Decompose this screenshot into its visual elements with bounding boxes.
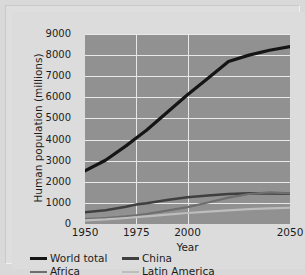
y-tick-label: 8000: [46, 50, 71, 60]
legend-entry-china: China: [122, 253, 172, 264]
figure-canvas: Human population (millions) 010002000300…: [12, 12, 305, 269]
y-tick-label: 6000: [46, 92, 71, 102]
x-tick-label: 2050: [277, 227, 304, 238]
legend-label-africa: Africa: [50, 266, 80, 275]
x-tick-label: 1950: [72, 227, 99, 238]
chart-legend: World total China Africa Latin America: [30, 252, 300, 275]
y-tick-label: 7000: [46, 71, 71, 81]
legend-swatch-world-total: [30, 257, 47, 260]
y-tick-label: 4000: [46, 135, 71, 145]
y-tick-label: 9000: [46, 29, 71, 39]
legend-row: Africa Latin America: [30, 265, 300, 275]
y-tick-label: 5000: [46, 113, 71, 123]
figure-inner-bevel: Human population (millions) 010002000300…: [5, 5, 300, 264]
legend-label-world-total: World total: [50, 253, 107, 264]
y-tick-label: 1000: [46, 198, 71, 208]
y-tick-label: 3000: [46, 156, 71, 166]
x-tick-label: 1975: [123, 227, 150, 238]
y-tick-label: 0: [65, 219, 71, 229]
legend-entry-latin-america: Latin America: [122, 266, 215, 275]
legend-label-latin-america: Latin America: [142, 266, 215, 275]
legend-entry-world-total: World total: [30, 253, 122, 264]
legend-swatch-latin-america: [122, 271, 139, 273]
y-tick-label: 2000: [46, 177, 71, 187]
x-tick-label: 2000: [174, 227, 201, 238]
series-line-world-total: [85, 47, 290, 171]
legend-row: World total China: [30, 252, 300, 265]
plot-area: [85, 34, 290, 224]
legend-label-china: China: [142, 253, 172, 264]
series-lines: [85, 34, 290, 224]
y-axis-title: Human population (millions): [32, 38, 44, 218]
legend-swatch-china: [122, 257, 139, 260]
figure-frame: Human population (millions) 010002000300…: [0, 0, 305, 275]
legend-swatch-africa: [30, 271, 47, 273]
legend-entry-africa: Africa: [30, 266, 122, 275]
